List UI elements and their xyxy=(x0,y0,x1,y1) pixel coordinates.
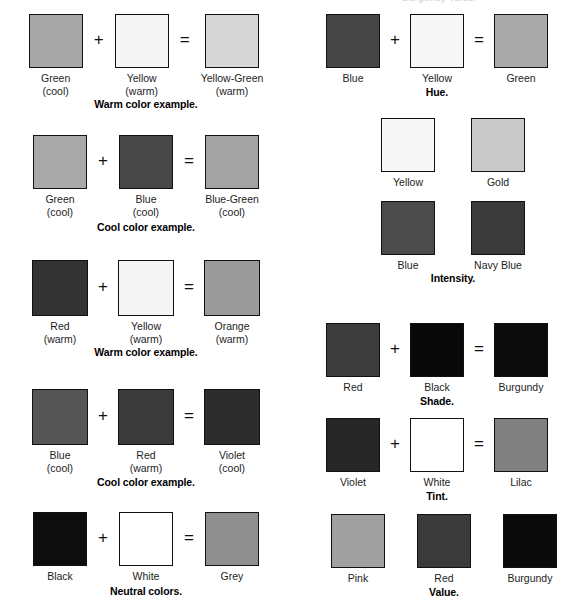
example-block-tint: Violet+White=LilacTint. xyxy=(296,418,578,502)
color-swatch-pink xyxy=(331,514,385,568)
swatch-label-red: Red xyxy=(434,572,453,585)
color-swatch-violet xyxy=(204,389,260,445)
swatch-cell-red: Red(warm) xyxy=(32,260,88,345)
swatch-label-gold: Gold xyxy=(487,176,509,189)
example-block-hue: Blue+Yellow=GreenHue. xyxy=(296,14,578,98)
example-block-neutral-colors: Black+White=GreyNeutral colors. xyxy=(6,512,286,597)
color-swatch-lilac xyxy=(494,418,548,472)
swatch-cell-blue: Blue(cool) xyxy=(119,135,173,218)
operator-slot: + xyxy=(88,389,118,424)
swatch-row: Red+Black=Burgundy xyxy=(296,323,578,394)
operator-slot: = xyxy=(464,14,494,48)
color-swatch-yellow-green xyxy=(205,14,259,68)
color-swatch-white xyxy=(119,512,173,566)
swatch-label-text: Black xyxy=(47,570,73,582)
color-swatch-blue xyxy=(32,389,88,445)
swatch-label-yellow-green: Yellow-Green(warm) xyxy=(201,72,264,97)
swatch-label-grey: Grey xyxy=(221,570,244,583)
color-swatch-black xyxy=(410,323,464,377)
swatch-row: BlueNavy Blue xyxy=(328,201,578,272)
swatch-label-yellow: Yellow(warm) xyxy=(130,320,163,345)
swatch-cell-pink: Pink xyxy=(331,514,385,585)
swatch-label-violet: Violet(cool) xyxy=(219,449,245,474)
caption-cool-color-example-1: Cool color example. xyxy=(6,221,286,233)
swatch-label-yellow: Yellow(warm) xyxy=(125,72,158,97)
color-swatch-red xyxy=(32,260,88,316)
caption-neutral-colors: Neutral colors. xyxy=(6,585,286,597)
swatch-label-text: Violet xyxy=(340,476,366,488)
swatch-cell-yellow: Yellow xyxy=(410,14,464,85)
swatch-cell-blue: Blue xyxy=(381,201,435,272)
color-swatch-green xyxy=(33,135,87,189)
swatch-cell-red: Red(warm) xyxy=(118,389,174,474)
operator-slot: = xyxy=(173,135,205,169)
example-block-cool-color-example-1: Green(cool)+Blue(cool)=Blue-Green(cool)C… xyxy=(6,135,286,233)
example-block-warm-color-example-2: Red(warm)+Yellow(warm)=Orange(warm)Warm … xyxy=(6,260,286,358)
plus-operator: + xyxy=(98,278,108,295)
color-swatch-green xyxy=(29,14,83,68)
operator-slot: + xyxy=(380,418,410,452)
operator-slot: = xyxy=(174,389,204,424)
operator-slot: + xyxy=(380,14,410,48)
color-swatch-red xyxy=(326,323,380,377)
swatch-label-text: Red xyxy=(50,320,69,332)
swatch-cell-grey: Grey xyxy=(205,512,259,583)
swatch-label-burgundy: Burgundy xyxy=(508,572,553,585)
swatch-label-text: Burgundy xyxy=(508,572,553,584)
swatch-label-text: White xyxy=(424,476,451,488)
plus-operator: + xyxy=(94,31,104,48)
swatch-cell-navy-blue: Navy Blue xyxy=(471,201,525,272)
color-swatch-white xyxy=(410,418,464,472)
swatch-cell-violet: Violet xyxy=(326,418,380,489)
color-swatch-burgundy xyxy=(494,323,548,377)
swatch-label-navy-blue: Navy Blue xyxy=(474,259,522,272)
color-swatch-yellow xyxy=(115,14,169,68)
swatch-label-text: Gold xyxy=(487,176,509,188)
swatch-label-blue-green: Blue-Green(cool) xyxy=(205,193,259,218)
equals-operator: = xyxy=(184,529,194,546)
example-block-cool-color-example-2: Blue(cool)+Red(warm)=Violet(cool)Cool co… xyxy=(6,389,286,488)
color-swatch-red xyxy=(417,514,471,568)
swatch-label-sub: (cool) xyxy=(219,462,245,475)
operator-slot: = xyxy=(174,260,204,295)
color-swatch-grey xyxy=(205,512,259,566)
operator-slot: = xyxy=(173,512,205,546)
swatch-label-blue: Blue xyxy=(397,259,418,272)
caption-value: Value. xyxy=(310,586,578,598)
swatch-label-text: Yellow xyxy=(422,72,452,84)
caption-cool-color-example-2: Cool color example. xyxy=(6,476,286,488)
swatch-label-sub: (warm) xyxy=(201,85,264,98)
swatch-row: Green(cool)+Yellow(warm)=Yellow-Green(wa… xyxy=(6,14,286,97)
color-swatch-yellow xyxy=(118,260,174,316)
operator-slot: = xyxy=(464,418,494,452)
swatch-cell-yellow: Yellow xyxy=(381,118,435,189)
swatch-cell-white: White xyxy=(410,418,464,489)
color-swatch-yellow xyxy=(410,14,464,68)
swatch-cell-black: Black xyxy=(33,512,87,583)
swatch-cell-yellow-green: Yellow-Green(warm) xyxy=(201,14,264,97)
cropped-top-heading: Burgundy Value. xyxy=(300,0,578,3)
equals-operator: = xyxy=(474,31,484,48)
plus-operator: + xyxy=(98,407,108,424)
swatch-cell-green: Green xyxy=(494,14,548,85)
equals-operator: = xyxy=(474,435,484,452)
color-swatch-yellow xyxy=(381,118,435,172)
example-block-shade: Red+Black=BurgundyShade. xyxy=(296,323,578,407)
swatch-row: Violet+White=Lilac xyxy=(296,418,578,489)
swatch-label-blue: Blue(cool) xyxy=(133,193,159,218)
swatch-label-text: Blue xyxy=(49,449,70,461)
example-block-warm-color-example-1: Green(cool)+Yellow(warm)=Yellow-Green(wa… xyxy=(6,14,286,110)
swatch-cell-red: Red xyxy=(326,323,380,394)
swatch-label-orange: Orange(warm) xyxy=(214,320,249,345)
swatch-label-text: Red xyxy=(434,572,453,584)
swatch-label-black: Black xyxy=(424,381,450,394)
color-swatch-orange xyxy=(204,260,260,316)
caption-warm-color-example-2: Warm color example. xyxy=(6,346,286,358)
color-swatch-green xyxy=(494,14,548,68)
swatch-label-red: Red(warm) xyxy=(130,449,163,474)
swatch-label-red: Red(warm) xyxy=(44,320,77,345)
caption-tint: Tint. xyxy=(296,490,578,502)
plus-operator: + xyxy=(390,435,400,452)
plus-operator: + xyxy=(98,152,108,169)
swatch-label-sub: (cool) xyxy=(133,206,159,219)
